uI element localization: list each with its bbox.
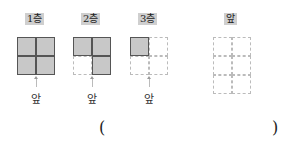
cell xyxy=(17,37,36,56)
cell[interactable] xyxy=(232,75,251,94)
cell xyxy=(130,56,149,75)
answer-close-paren: ) xyxy=(272,118,278,137)
cell xyxy=(73,56,92,75)
cell xyxy=(149,56,168,75)
answer-open-paren: ( xyxy=(99,118,105,137)
cell xyxy=(36,56,55,75)
cell[interactable] xyxy=(232,56,251,75)
arrow-up-icon xyxy=(92,78,93,87)
cell[interactable] xyxy=(213,56,232,75)
cell[interactable] xyxy=(213,75,232,94)
front-label: 앞 xyxy=(80,90,104,106)
arrow-up-icon xyxy=(149,78,150,87)
floor-1-label: 1층 xyxy=(25,13,44,25)
cell xyxy=(130,37,149,56)
floor-3-grid xyxy=(130,37,168,75)
floor-1-grid xyxy=(17,37,55,75)
cell xyxy=(17,56,36,75)
answer-blank[interactable] xyxy=(110,118,270,136)
cell xyxy=(73,37,92,56)
arrow-up-icon xyxy=(36,78,37,87)
floor-3-label: 3층 xyxy=(138,13,157,25)
cell xyxy=(92,37,111,56)
front-label: 앞 xyxy=(137,90,161,106)
front-view-grid[interactable] xyxy=(213,37,251,94)
front-label: 앞 xyxy=(24,90,48,106)
front-view-label: 앞 xyxy=(224,13,237,25)
cell xyxy=(92,56,111,75)
cell[interactable] xyxy=(213,37,232,56)
floor-2-grid xyxy=(73,37,111,75)
cell xyxy=(36,37,55,56)
cell[interactable] xyxy=(232,37,251,56)
cell xyxy=(149,37,168,56)
floor-2-label: 2층 xyxy=(81,13,100,25)
